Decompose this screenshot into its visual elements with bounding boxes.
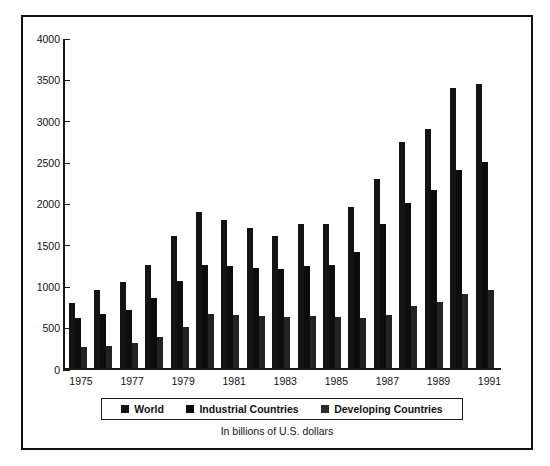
y-axis-tick-label: 3000 bbox=[37, 116, 63, 127]
legend-item: Developing Countries bbox=[321, 403, 443, 415]
bar bbox=[462, 294, 468, 368]
bar bbox=[284, 317, 290, 368]
bar bbox=[233, 315, 239, 368]
x-axis-tick: 1985 bbox=[322, 372, 348, 390]
x-axis-tick-label: 1991 bbox=[470, 375, 510, 387]
legend-swatch-icon bbox=[321, 405, 329, 413]
bar bbox=[488, 290, 494, 368]
x-axis-tick: 1983 bbox=[271, 372, 297, 390]
bar-group bbox=[145, 39, 170, 368]
legend-swatch-icon bbox=[121, 405, 129, 413]
bar bbox=[360, 318, 366, 368]
bar bbox=[310, 316, 316, 368]
bar-group bbox=[272, 39, 297, 368]
x-axis-tick: 1977 bbox=[118, 372, 144, 390]
bar-group bbox=[171, 39, 196, 368]
bar-group bbox=[374, 39, 399, 368]
y-axis-tick-label: 1500 bbox=[37, 240, 63, 251]
y-axis-tick-label: 3500 bbox=[37, 75, 63, 86]
bar bbox=[183, 327, 189, 368]
y-axis-tick-label: 2000 bbox=[37, 199, 63, 210]
x-axis-tick: 1975 bbox=[67, 372, 93, 390]
legend-swatch-icon bbox=[186, 405, 194, 413]
bar-group bbox=[425, 39, 450, 368]
chart-caption: In billions of U.S. dollars bbox=[23, 425, 531, 437]
y-axis-tick-label: 500 bbox=[42, 323, 63, 334]
bar-group bbox=[94, 39, 119, 368]
bar bbox=[411, 306, 417, 368]
y-axis-tick-label: 1000 bbox=[37, 282, 63, 293]
legend-item: World bbox=[121, 403, 164, 415]
x-axis-tick: 1991 bbox=[476, 372, 502, 390]
bar bbox=[208, 314, 214, 368]
bar bbox=[259, 316, 265, 368]
y-axis-tick-label: 4000 bbox=[37, 33, 63, 44]
bar bbox=[157, 337, 163, 368]
x-axis-tick: 1981 bbox=[220, 372, 246, 390]
x-axis-tick: 1989 bbox=[424, 372, 450, 390]
bar-group bbox=[476, 39, 501, 368]
plot-area bbox=[63, 39, 501, 370]
legend-item-label: Developing Countries bbox=[334, 403, 443, 415]
bar-group bbox=[323, 39, 348, 368]
bar-group bbox=[399, 39, 424, 368]
x-axis-tick: 1979 bbox=[169, 372, 195, 390]
bar-group bbox=[348, 39, 373, 368]
bar-group bbox=[247, 39, 272, 368]
bar bbox=[437, 302, 443, 368]
bar-groups-container bbox=[65, 39, 501, 368]
bar-group bbox=[221, 39, 246, 368]
bar bbox=[132, 343, 138, 368]
legend-item-label: World bbox=[134, 403, 164, 415]
legend-item-label: Industrial Countries bbox=[199, 403, 298, 415]
y-axis: 40003500300025002000150010005000 bbox=[23, 39, 63, 370]
bar bbox=[335, 317, 341, 368]
x-axis-tick: 1987 bbox=[373, 372, 399, 390]
bar-group bbox=[69, 39, 94, 368]
bar bbox=[106, 346, 112, 368]
y-axis-tick-label: 0 bbox=[54, 364, 63, 375]
bar bbox=[386, 315, 392, 368]
bar-group bbox=[450, 39, 475, 368]
chart-figure-frame: 40003500300025002000150010005000 1975197… bbox=[21, 15, 533, 450]
chart-legend: WorldIndustrial CountriesDeveloping Coun… bbox=[101, 398, 463, 420]
bar-group bbox=[298, 39, 323, 368]
y-axis-tick-label: 2500 bbox=[37, 157, 63, 168]
bar-group bbox=[120, 39, 145, 368]
bar-group bbox=[196, 39, 221, 368]
x-axis: 197519771979198119831985198719891991 bbox=[63, 372, 501, 390]
legend-item: Industrial Countries bbox=[186, 403, 298, 415]
bar bbox=[81, 347, 87, 368]
